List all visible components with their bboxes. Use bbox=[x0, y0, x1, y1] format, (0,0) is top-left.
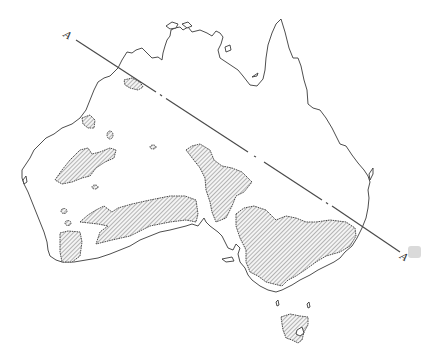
hatched-region-kimberley bbox=[124, 78, 143, 90]
hatched-region-south-band bbox=[80, 196, 198, 244]
scan-artifact bbox=[408, 246, 421, 258]
fraser-island bbox=[369, 168, 373, 180]
hatched-region-southeast bbox=[236, 206, 356, 286]
groote-eylandt bbox=[225, 45, 231, 52]
section-line-dot-2 bbox=[254, 156, 256, 157]
section-line-dot-3 bbox=[326, 203, 328, 205]
section-line-segment-3 bbox=[264, 162, 322, 200]
section-label-start: A bbox=[61, 28, 74, 42]
bass-strait-island-east bbox=[307, 302, 310, 308]
bass-strait-island-west bbox=[276, 300, 279, 306]
section-line-segment-2 bbox=[166, 99, 248, 153]
mornington-island bbox=[252, 73, 258, 77]
hatched-islet-1 bbox=[107, 131, 113, 139]
shark-bay-island bbox=[23, 176, 27, 184]
hatched-islet-3 bbox=[92, 185, 98, 189]
australia-map: A A bbox=[0, 0, 421, 358]
hatched-islet-4 bbox=[61, 209, 67, 214]
tasmania-hatched-region bbox=[281, 314, 308, 343]
hatched-region-southwest-corner bbox=[60, 231, 82, 262]
hatched-islet-2 bbox=[150, 145, 156, 149]
kangaroo-island bbox=[222, 257, 234, 262]
hatched-region-west-central bbox=[55, 148, 116, 184]
bathurst-island bbox=[182, 22, 192, 28]
melville-island bbox=[166, 22, 178, 29]
hatched-region-pilbara-small bbox=[82, 115, 95, 128]
section-line-dot-1 bbox=[160, 95, 162, 97]
hatched-islet-5 bbox=[65, 221, 71, 226]
section-line-segment-1 bbox=[76, 40, 156, 92]
